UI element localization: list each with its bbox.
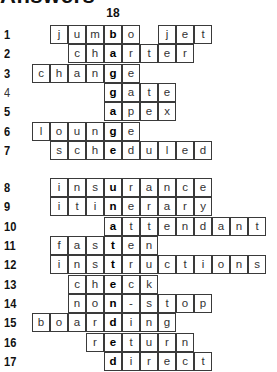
letter-cell: o	[176, 294, 194, 313]
letter-cell: m	[86, 25, 104, 44]
letter-cell: c	[68, 141, 86, 160]
letter-cell: d	[194, 217, 212, 236]
letter-cell: u	[140, 333, 158, 352]
key-letter-cell: e	[104, 275, 122, 294]
letter-cell: i	[50, 255, 68, 274]
row-number: 2	[4, 44, 24, 63]
letter-cell: t	[194, 25, 212, 44]
key-letter-cell: e	[104, 141, 122, 160]
letter-cell: t	[194, 352, 212, 371]
letter-cell: t	[140, 83, 158, 102]
key-letter-cell: n	[104, 197, 122, 216]
letter-cell: e	[140, 102, 158, 121]
letter-cell: f	[50, 236, 68, 255]
letter-cell: c	[68, 44, 86, 63]
row-number: 5	[4, 102, 24, 121]
letter-cell: d	[194, 141, 212, 160]
letter-cell: c	[68, 275, 86, 294]
key-letter-cell: d	[104, 352, 122, 371]
letter-cell: n	[158, 178, 176, 197]
letter-cell: r	[176, 44, 194, 63]
row-number: 11	[4, 236, 24, 255]
row-number: 10	[4, 217, 24, 236]
letter-cell: p	[122, 102, 140, 121]
key-letter-cell: d	[104, 313, 122, 332]
key-letter-cell: e	[104, 333, 122, 352]
letter-cell: l	[32, 122, 50, 141]
letter-cell: s	[86, 255, 104, 274]
letter-cell: u	[140, 141, 158, 160]
letter-cell: a	[158, 197, 176, 216]
letter-cell: t	[122, 333, 140, 352]
letter-cell: h	[86, 141, 104, 160]
letter-cell: t	[176, 255, 194, 274]
letter-cell: e	[158, 352, 176, 371]
letter-cell: a	[68, 313, 86, 332]
letter-cell: n	[230, 217, 248, 236]
letter-cell: i	[50, 178, 68, 197]
letter-cell: n	[140, 236, 158, 255]
letter-cell: i	[122, 313, 140, 332]
letter-cell: t	[122, 217, 140, 236]
row-number: 12	[4, 255, 24, 274]
letter-cell: r	[122, 255, 140, 274]
letter-cell: e	[158, 83, 176, 102]
letter-cell: j	[158, 25, 176, 44]
row-number: 14	[4, 294, 24, 313]
letter-cell: n	[86, 122, 104, 141]
letter-cell: e	[158, 44, 176, 63]
letter-cell: k	[140, 275, 158, 294]
letter-cell: s	[248, 255, 266, 274]
row-number: 13	[4, 275, 24, 294]
letter-cell: a	[68, 64, 86, 83]
letter-cell: h	[86, 44, 104, 63]
letter-cell: i	[194, 255, 212, 274]
letter-cell: n	[68, 178, 86, 197]
row-number: 1	[4, 25, 24, 44]
row-number: 4	[4, 83, 24, 102]
row-number: 3	[4, 64, 24, 83]
letter-cell: t	[248, 217, 266, 236]
letter-cell: c	[176, 178, 194, 197]
letter-cell: h	[50, 64, 68, 83]
letter-cell: r	[122, 44, 140, 63]
letter-cell: e	[122, 122, 140, 141]
letter-cell: i	[50, 197, 68, 216]
key-letter-cell: a	[104, 217, 122, 236]
letter-cell: o	[50, 313, 68, 332]
letter-cell: n	[176, 333, 194, 352]
letter-cell: -	[122, 294, 140, 313]
letter-cell: s	[140, 294, 158, 313]
letter-cell: o	[212, 255, 230, 274]
row-number: 6	[4, 122, 24, 141]
row-number: 9	[4, 197, 24, 216]
letter-cell: t	[68, 197, 86, 216]
key-letter-cell: b	[104, 25, 122, 44]
letter-cell: t	[140, 44, 158, 63]
letter-cell: r	[140, 197, 158, 216]
letter-cell: r	[140, 352, 158, 371]
letter-cell: a	[68, 236, 86, 255]
letter-cell: n	[68, 294, 86, 313]
key-letter-cell: t	[104, 236, 122, 255]
letter-cell: n	[176, 217, 194, 236]
letter-cell: e	[176, 141, 194, 160]
letter-cell: u	[68, 25, 86, 44]
key-letter-cell: u	[104, 178, 122, 197]
key-letter-cell: n	[104, 294, 122, 313]
letter-cell: e	[122, 197, 140, 216]
key-column-label: 18	[104, 6, 122, 20]
letter-cell: a	[122, 83, 140, 102]
key-letter-cell: g	[104, 122, 122, 141]
letter-cell: t	[140, 217, 158, 236]
letter-cell: l	[158, 141, 176, 160]
letter-cell: o	[86, 294, 104, 313]
key-letter-cell: t	[104, 255, 122, 274]
letter-cell: r	[158, 333, 176, 352]
letter-cell: s	[50, 141, 68, 160]
letter-cell: c	[176, 352, 194, 371]
letter-cell: n	[86, 64, 104, 83]
row-number: 7	[4, 141, 24, 160]
letter-cell: x	[158, 102, 176, 121]
letter-cell: s	[86, 178, 104, 197]
